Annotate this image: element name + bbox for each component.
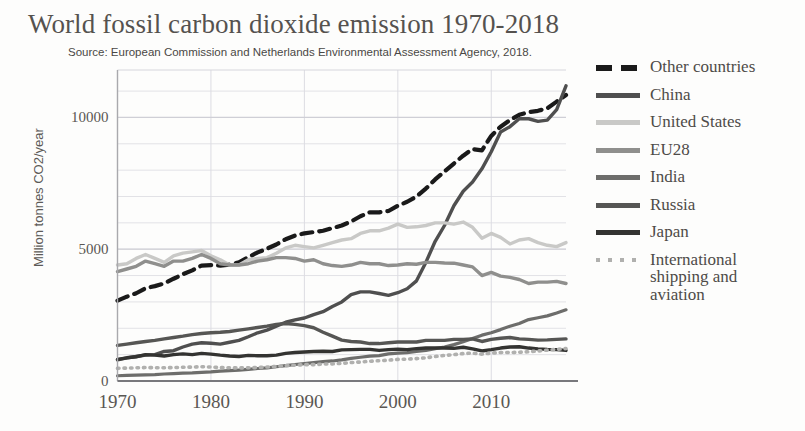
legend-swatch-icon bbox=[596, 86, 640, 104]
x-tick-label: 1980 bbox=[192, 391, 230, 412]
series-line-russia bbox=[118, 324, 567, 346]
grid-vertical bbox=[118, 70, 492, 381]
legend-item[interactable]: Russia bbox=[596, 196, 801, 214]
legend-item[interactable]: India bbox=[596, 168, 801, 186]
y-tick-label: 0 bbox=[101, 373, 109, 389]
legend-swatch-icon bbox=[596, 168, 640, 186]
legend-item-label: International shipping and aviation bbox=[650, 251, 765, 304]
legend-swatch-icon bbox=[596, 58, 640, 76]
legend-item[interactable]: China bbox=[596, 86, 801, 104]
series-lines bbox=[118, 86, 567, 376]
legend-item-label: United States bbox=[650, 113, 741, 131]
x-axis-tick-labels: 19701980199020002010 bbox=[99, 391, 511, 412]
legend-swatch-icon bbox=[596, 251, 640, 269]
series-line-eu28 bbox=[118, 254, 567, 283]
x-tick-label: 2000 bbox=[379, 391, 417, 412]
x-tick-label: 1970 bbox=[99, 391, 137, 412]
x-tick-label: 2010 bbox=[472, 391, 510, 412]
legend-item[interactable]: Other countries bbox=[596, 58, 801, 76]
y-tick-label: 10000 bbox=[71, 109, 109, 125]
legend-item[interactable]: United States bbox=[596, 113, 801, 131]
series-line-other-countries bbox=[118, 95, 567, 301]
chart-legend: Other countriesChinaUnited StatesEU28Ind… bbox=[596, 58, 801, 313]
chart-page: World fossil carbon dioxide emission 197… bbox=[0, 0, 805, 431]
legend-swatch-icon bbox=[596, 196, 640, 214]
legend-swatch-icon bbox=[596, 223, 640, 241]
legend-item-label: Japan bbox=[650, 223, 689, 241]
legend-item[interactable]: Japan bbox=[596, 223, 801, 241]
y-axis-tick-labels: 0500010000 bbox=[71, 109, 109, 389]
legend-swatch-icon bbox=[596, 141, 640, 159]
legend-item-label: Russia bbox=[650, 196, 695, 214]
legend-swatch-icon bbox=[596, 113, 640, 131]
legend-item-label: Other countries bbox=[650, 58, 755, 76]
series-line-united-states bbox=[118, 222, 567, 265]
legend-item-label: India bbox=[650, 168, 685, 186]
x-tick-label: 1990 bbox=[285, 391, 323, 412]
y-tick-label: 5000 bbox=[79, 241, 109, 257]
legend-item[interactable]: EU28 bbox=[596, 141, 801, 159]
legend-item[interactable]: International shipping and aviation bbox=[596, 251, 801, 304]
legend-item-label: EU28 bbox=[650, 141, 690, 159]
legend-item-label: China bbox=[650, 86, 691, 104]
